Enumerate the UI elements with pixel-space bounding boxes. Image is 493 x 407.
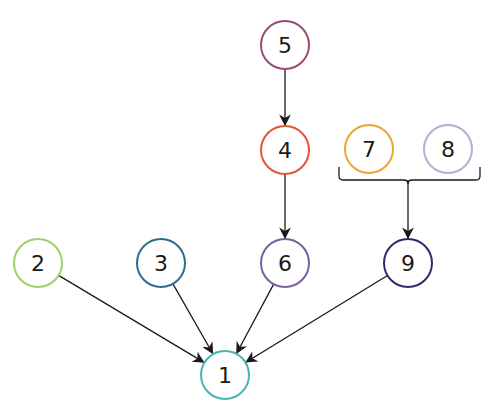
edge-3-to-1 — [173, 284, 213, 353]
node-label: 5 — [278, 33, 292, 58]
node-label: 3 — [154, 251, 168, 276]
node-1: 1 — [201, 351, 249, 399]
node-8: 8 — [424, 125, 472, 173]
edge-2-to-1 — [59, 275, 204, 362]
node-4: 4 — [261, 126, 309, 174]
node-2: 2 — [14, 239, 62, 287]
node-label: 2 — [31, 251, 45, 276]
edge-6-to-1 — [237, 284, 274, 353]
node-9: 9 — [384, 239, 432, 287]
node-7: 7 — [345, 125, 393, 173]
node-label: 8 — [441, 137, 455, 162]
node-label: 4 — [278, 138, 292, 163]
node-label: 1 — [218, 363, 232, 388]
node-5: 5 — [261, 21, 309, 69]
node-3: 3 — [137, 239, 185, 287]
edge-9-to-1 — [246, 276, 387, 362]
node-6: 6 — [261, 239, 309, 287]
edges — [59, 69, 408, 362]
node-label: 7 — [362, 137, 376, 162]
node-label: 6 — [278, 251, 292, 276]
node-label: 9 — [401, 251, 415, 276]
dependency-diagram: 123456789 — [0, 0, 493, 407]
